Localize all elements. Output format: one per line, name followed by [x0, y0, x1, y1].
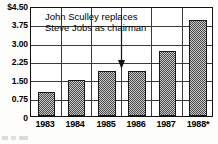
x-tick-label-1984: 1984 — [58, 119, 92, 130]
bar-1983 — [38, 92, 55, 116]
x-axis: 1983 1984 1985 1986 1987 1988* — [30, 119, 213, 133]
bar-chart-figure: $4.50 3.75 3.00 2.25 1.50 0.75 0 John Sc… — [0, 0, 218, 144]
annotation-line-1: John Sculley replaces — [45, 12, 170, 23]
x-tick-label-1983: 1983 — [28, 119, 62, 130]
y-tick-label-m2: 0 — [0, 114, 28, 123]
y-tick-label-4: $4.50 — [0, 3, 28, 12]
bar-1988 — [189, 20, 207, 116]
scan-artifact — [2, 136, 28, 140]
x-tick-label-1987: 1987 — [149, 119, 183, 130]
y-tick-label-m1: 0.75 — [0, 95, 28, 104]
bar-1985 — [98, 71, 116, 116]
x-tick-label-1986: 1986 — [119, 119, 153, 130]
annotation-arrow-icon — [117, 26, 126, 70]
y-tick-label-3: 3.75 — [0, 21, 28, 30]
y-axis: $4.50 3.75 3.00 2.25 1.50 0.75 0 — [0, 0, 28, 125]
annotation-text: John Sculley replaces Steve Jobs as chai… — [45, 12, 170, 33]
annotation-line-2: Steve Jobs as chairman — [45, 23, 170, 34]
gridline-vertical — [182, 8, 183, 116]
y-tick-label-2: 3.00 — [0, 40, 28, 49]
x-tick-label-1988: 1988* — [180, 119, 216, 130]
bar-1986 — [128, 71, 146, 116]
bar-1984 — [68, 80, 85, 116]
bar-1987 — [159, 51, 176, 116]
y-tick-label-1: 2.25 — [0, 58, 28, 67]
x-tick-label-1985: 1985 — [89, 119, 123, 130]
y-tick-label-0: 1.50 — [0, 77, 28, 86]
